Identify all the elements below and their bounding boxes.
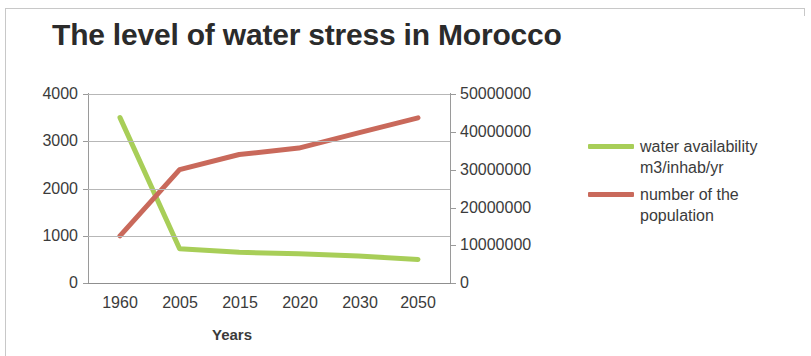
x-label-2030: 2030 — [332, 294, 388, 312]
gridline-3000 — [88, 141, 450, 142]
y-right-label-10000000: 10000000 — [460, 236, 531, 254]
y-left-label-1000: 1000 — [16, 227, 78, 245]
gridline-4000 — [88, 94, 450, 95]
tick-left-3000 — [83, 141, 88, 142]
x-label-1960: 1960 — [92, 294, 148, 312]
chart-border-left — [5, 8, 6, 356]
plot-area — [88, 94, 450, 283]
legend-label-population: number of the population — [640, 186, 739, 224]
x-label-2005: 2005 — [152, 294, 208, 312]
tick-right-0 — [451, 283, 456, 284]
tick-right-10000000 — [451, 245, 456, 246]
chart-border-right — [804, 8, 805, 16]
tick-left-4000 — [83, 94, 88, 95]
x-label-2020: 2020 — [272, 294, 328, 312]
tick-right-20000000 — [451, 208, 456, 209]
y-left-label-2000: 2000 — [16, 180, 78, 198]
legend-item-water-availability[interactable]: water availability m3/inhab/yr — [586, 136, 801, 178]
legend-swatch-water-availability — [588, 144, 634, 149]
tick-right-30000000 — [451, 170, 456, 171]
y-right-label-20000000: 20000000 — [460, 199, 531, 217]
chart-legend: water availability m3/inhab/yr number of… — [586, 136, 801, 232]
gridline-1000 — [88, 236, 450, 237]
y-right-label-0: 0 — [460, 274, 469, 292]
legend-item-population[interactable]: number of the population — [586, 184, 801, 226]
y-right-label-30000000: 30000000 — [460, 161, 531, 179]
tick-left-1000 — [83, 236, 88, 237]
tick-right-40000000 — [451, 132, 456, 133]
tick-left-0 — [83, 283, 88, 284]
chart-container: The level of water stress in Morocco 400… — [0, 0, 811, 356]
y-axis-right-line — [450, 93, 451, 284]
chart-border-top — [5, 8, 805, 9]
x-axis-line — [88, 283, 451, 284]
y-right-label-40000000: 40000000 — [460, 123, 531, 141]
x-label-2050: 2050 — [390, 294, 446, 312]
chart-title: The level of water stress in Morocco — [52, 18, 562, 52]
x-axis-title: Years — [212, 326, 252, 343]
tick-right-50000000 — [451, 94, 456, 95]
x-label-2015: 2015 — [212, 294, 268, 312]
y-left-label-3000: 3000 — [16, 132, 78, 150]
y-left-label-0: 0 — [16, 274, 78, 292]
y-right-label-50000000: 50000000 — [460, 85, 531, 103]
legend-label-water-availability: water availability m3/inhab/yr — [640, 138, 757, 176]
gridline-2000 — [88, 189, 450, 190]
legend-swatch-population — [588, 192, 634, 197]
tick-left-2000 — [83, 189, 88, 190]
y-left-label-4000: 4000 — [16, 85, 78, 103]
